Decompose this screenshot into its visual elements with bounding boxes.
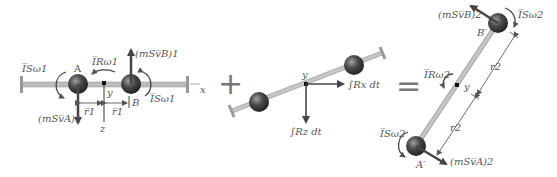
rotation-arc-r-icon [92, 70, 115, 74]
rod-end-cap-left [20, 76, 23, 93]
label-z: z [99, 123, 106, 134]
sphere-lower [249, 92, 269, 112]
label-ir-omega-2: I̅Rω2 [423, 69, 450, 80]
label-r2-bottom: r2 [450, 122, 461, 133]
label-rz-impulse: ∫Rz dt [290, 126, 323, 137]
label-ms-va-1: (mSv̅A)1 [38, 113, 81, 124]
sphere-upper [344, 55, 364, 75]
center-point [102, 81, 106, 85]
label-ms-vb-1: (mSv̅B)1 [135, 48, 179, 59]
label-point-b-prime: B′ [476, 27, 487, 38]
label-x: x [200, 84, 206, 95]
label-is-omega-2-top: I̅Sω2 [517, 9, 543, 20]
panel-initial-momentum: I̅Sω1 A I̅Rω1 (mSv̅B)1 y B I̅Sω1 (mSv̅A)… [20, 48, 206, 134]
label-ir-omega-1: I̅Rω1 [91, 56, 118, 67]
impulse-momentum-diagram: I̅Sω1 A I̅Rω1 (mSv̅B)1 y B I̅Sω1 (mSv̅A)… [0, 0, 557, 177]
label-point-a-prime: A′ [415, 159, 426, 170]
plus-operator: + [218, 66, 243, 101]
label-ms-va-2: (mSv̅A)2 [450, 156, 493, 167]
label-y: y [463, 81, 470, 92]
label-r2-top: r2 [490, 61, 501, 72]
label-is-omega-2-bottom: I̅Sω2 [379, 128, 405, 139]
rod-end-cap-right [186, 76, 189, 93]
label-point-b: B [131, 97, 139, 108]
label-ms-vb-2: (mSv̅B)2 [438, 9, 482, 20]
equals-operator: = [396, 68, 421, 103]
panel-external-impulses: y ∫Rx dt ∫Rz dt [229, 47, 385, 137]
label-point-a: A [73, 63, 82, 74]
label-y: y [106, 87, 113, 98]
label-r1-right: r̅1 [112, 106, 123, 117]
label-is-omega-1-left: I̅Sω1 [21, 63, 47, 74]
label-rx-impulse: ∫Rx dt [348, 79, 381, 90]
center-point [455, 83, 459, 87]
label-is-omega-1-right: I̅Sω1 [149, 93, 175, 104]
label-r1-left: r̅1 [84, 106, 95, 117]
label-y: y [301, 69, 308, 80]
